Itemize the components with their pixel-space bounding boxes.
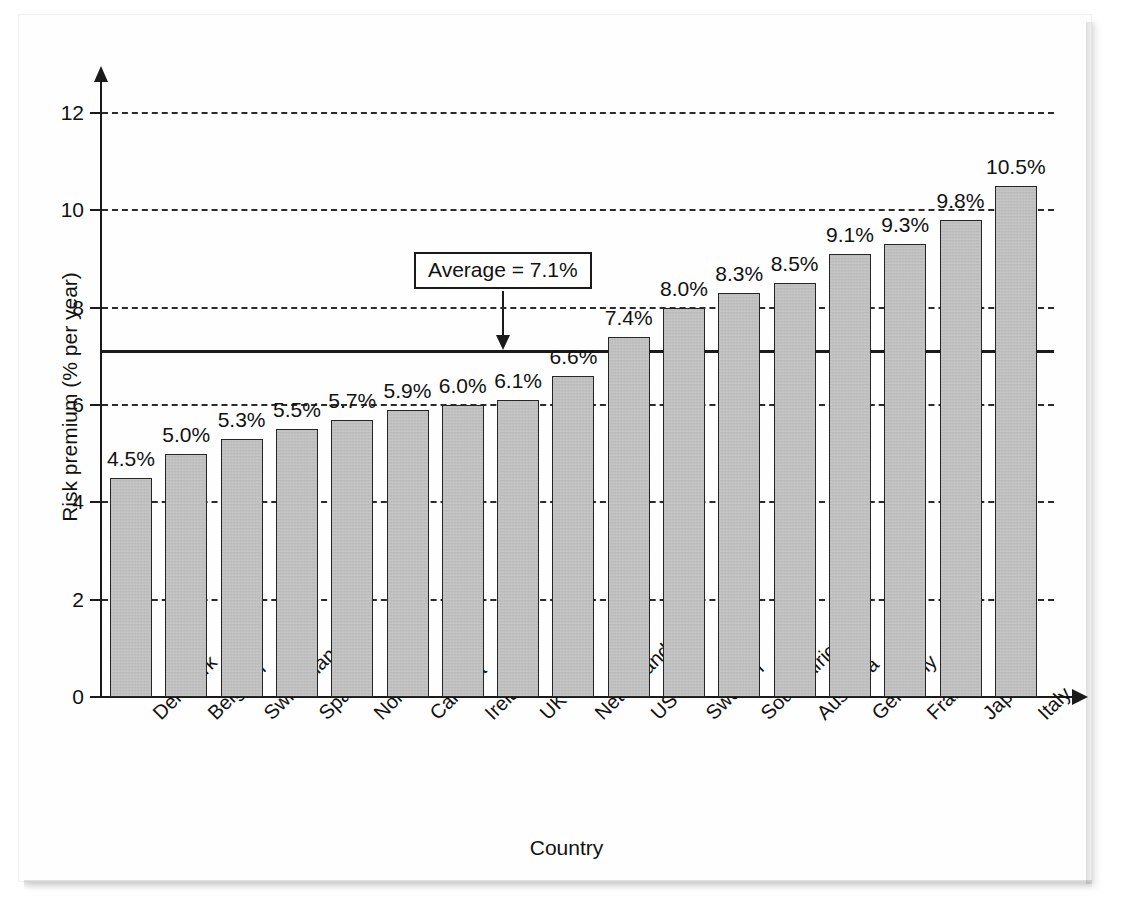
y-tick-label-6: 6 [38,394,84,415]
average-callout-label: Average = 7.1% [414,252,592,289]
x-category-label-denmark: Denmark [149,709,163,723]
chart-page: Average = 7.1% Risk premium (% per year)… [0,0,1133,921]
x-axis-title: Country [0,836,1133,860]
bar-switzerland[interactable] [221,439,263,697]
y-tick-label-4: 4 [38,491,84,512]
average-callout-leader-line [502,291,504,337]
gridline-10 [102,209,1054,211]
x-category-label-ireland: Ireland [481,709,495,723]
bar-value-label-uk: 6.1% [478,370,558,391]
bar-canada[interactable] [387,410,429,697]
x-category-label-norway: Norway [370,709,384,723]
bar-uk[interactable] [497,400,539,697]
x-category-label-switzerland: Switzerland [260,709,274,723]
bar-chart-plot-area: Average = 7.1% Risk premium (% per year)… [0,0,1133,921]
bar-value-label-france: 9.3% [865,214,945,235]
bar-value-label-denmark: 4.5% [91,448,171,469]
x-category-label-sweden: Sweden [702,709,716,723]
bar-japan[interactable] [940,220,982,697]
y-tick-8 [90,307,102,309]
average-callout-arrow-icon [496,335,510,350]
gridline-12 [102,112,1054,114]
bar-value-label-us: 7.4% [589,307,669,328]
x-category-label-uk: UK [536,709,550,723]
bar-australia[interactable] [774,283,816,697]
bar-ireland[interactable] [442,405,484,697]
y-axis-arrow-icon [94,66,108,82]
x-category-label-germany: Germany [868,709,882,723]
x-category-label-south-africa: South Africa [757,709,771,723]
y-tick-label-2: 2 [38,589,84,610]
y-tick-label-8: 8 [38,297,84,318]
y-tick-10 [90,209,102,211]
x-category-label-italy: Italy [1034,709,1048,723]
y-tick-0 [90,696,102,698]
y-tick-label-0: 0 [38,686,84,707]
bar-value-label-japan: 9.8% [921,190,1001,211]
bar-value-label-australia: 8.5% [755,253,835,274]
x-category-label-us: US [647,709,661,723]
bar-italy[interactable] [995,186,1037,697]
bar-norway[interactable] [331,420,373,697]
bar-netherlands[interactable] [552,376,594,697]
y-tick-label-10: 10 [38,199,84,220]
x-category-label-france: France [923,709,937,723]
x-category-label-spain: Spain [315,709,329,723]
bar-germany[interactable] [829,254,871,697]
y-tick-2 [90,599,102,601]
bar-denmark[interactable] [110,478,152,697]
x-category-label-japan: Japan [979,709,993,723]
bar-france[interactable] [884,244,926,697]
x-category-label-canada: Canada [426,709,440,723]
bar-belgium[interactable] [165,454,207,697]
y-tick-6 [90,404,102,406]
bar-value-label-italy: 10.5% [976,156,1056,177]
y-tick-label-12: 12 [38,102,84,123]
bar-spain[interactable] [276,429,318,697]
bar-south-africa[interactable] [718,293,760,697]
x-category-label-australia: Australia [813,709,827,723]
bar-sweden[interactable] [663,308,705,697]
bar-us[interactable] [608,337,650,697]
x-category-label-belgium: Belgium [204,709,218,723]
y-axis-line [100,78,102,698]
bar-value-label-netherlands: 6.6% [533,346,613,367]
y-tick-4 [90,501,102,503]
x-category-label-netherlands: Netherlands [591,709,605,723]
y-tick-12 [90,112,102,114]
